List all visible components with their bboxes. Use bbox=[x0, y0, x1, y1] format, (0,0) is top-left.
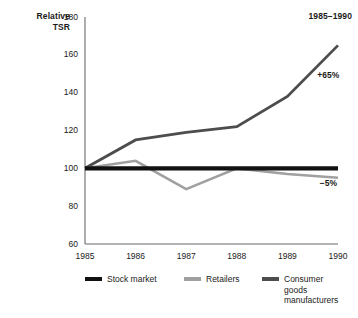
y-tick-label: 80 bbox=[54, 202, 78, 211]
y-tick-label: 180 bbox=[54, 13, 78, 22]
legend-swatch-icon bbox=[262, 277, 279, 281]
x-tick-label: 1985 bbox=[65, 252, 105, 261]
legend-label: Consumer goods manufacturers bbox=[284, 274, 338, 306]
chart-container: Relative TSR 1985–1990 60801001201401601… bbox=[0, 0, 358, 318]
legend-item[interactable]: Retailers bbox=[184, 274, 240, 285]
legend-item[interactable]: Stock market bbox=[85, 274, 157, 285]
legend-item[interactable]: Consumer goods manufacturers bbox=[262, 274, 338, 306]
legend-swatch-icon bbox=[85, 277, 102, 281]
x-tick-label: 1986 bbox=[116, 252, 156, 261]
y-tick-label: 100 bbox=[54, 164, 78, 173]
y-tick-label: 140 bbox=[54, 88, 78, 97]
annotation-label: −5% bbox=[320, 179, 337, 188]
y-tick-label: 160 bbox=[54, 50, 78, 59]
annotation-label: +65% bbox=[317, 71, 339, 80]
x-tick-label: 1988 bbox=[217, 252, 257, 261]
series-line-retailers bbox=[85, 161, 338, 189]
legend-swatch-icon bbox=[184, 277, 201, 281]
x-tick-label: 1987 bbox=[166, 252, 206, 261]
legend-label: Retailers bbox=[206, 274, 240, 285]
series-line-consumer-goods-manufacturers bbox=[85, 45, 338, 168]
y-tick-label: 60 bbox=[54, 240, 78, 249]
x-tick-label: 1989 bbox=[267, 252, 307, 261]
y-tick-label: 120 bbox=[54, 126, 78, 135]
chart-legend: Stock marketRetailersConsumer goods manu… bbox=[0, 272, 358, 318]
legend-label: Stock market bbox=[107, 274, 157, 285]
x-tick-label: 1990 bbox=[318, 252, 358, 261]
plot-area bbox=[0, 0, 358, 318]
